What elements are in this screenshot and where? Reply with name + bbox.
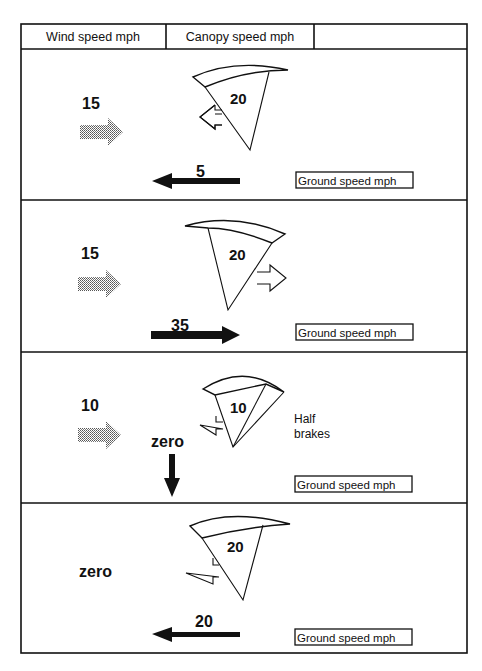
wind-speed-value: zero: [79, 563, 112, 580]
canopy-speed-value: 20: [227, 538, 244, 555]
panel-4: zero 20 20 Ground speed mph: [79, 516, 412, 645]
canopy-speed-value: 10: [230, 399, 247, 416]
ground-speed-value: 20: [195, 613, 213, 630]
half-brakes-note-line1: Half: [294, 412, 316, 426]
canopy-direction-left-icon: [200, 416, 223, 435]
wind-speed-value: 15: [82, 95, 100, 112]
wind-speed-value: 15: [81, 245, 99, 262]
ground-speed-value: zero: [151, 433, 184, 450]
ground-speed-label: Ground speed mph: [297, 632, 395, 644]
wind-arrow-right-icon: [78, 421, 121, 449]
canopy-icon: [190, 516, 290, 600]
wind-arrow-right-icon: [78, 270, 121, 298]
header-canopy-speed: Canopy speed mph: [186, 30, 294, 44]
canopy-direction-left-icon: [186, 558, 219, 584]
header-row: Wind speed mph Canopy speed mph: [46, 30, 294, 44]
ground-arrow-right-icon: [151, 326, 240, 344]
ground-speed-value: 5: [196, 163, 205, 180]
header-wind-speed: Wind speed mph: [46, 30, 140, 44]
panel-2: 15 20 35 Ground speed mph: [78, 221, 413, 344]
half-brakes-note-line2: brakes: [294, 427, 330, 441]
ground-speed-label: Ground speed mph: [298, 175, 396, 187]
panel-3: 10 10 Half brakes zero Ground speed mph: [78, 376, 412, 497]
ground-speed-label: Ground speed mph: [297, 479, 395, 491]
wind-canopy-ground-speed-diagram: Wind speed mph Canopy speed mph 15 20 5 …: [0, 0, 482, 671]
panel-1: 15 20 5 Ground speed mph: [80, 65, 413, 189]
canopy-direction-right-icon: [257, 265, 286, 291]
wind-arrow-right-icon: [80, 118, 123, 146]
canopy-speed-value: 20: [229, 246, 246, 263]
canopy-icon: [193, 65, 288, 150]
wind-speed-value: 10: [81, 397, 99, 414]
canopy-speed-value: 20: [230, 90, 247, 107]
ground-speed-label: Ground speed mph: [298, 327, 396, 339]
ground-arrow-down-icon: [164, 454, 180, 497]
